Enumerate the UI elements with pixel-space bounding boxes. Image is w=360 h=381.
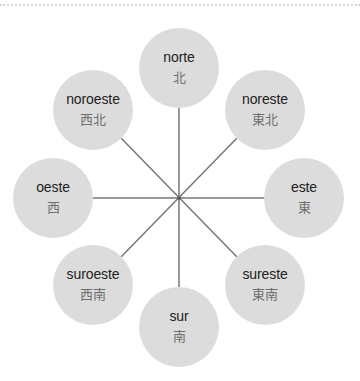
label-chinese: 東 xyxy=(298,199,311,217)
label-spanish: suroeste xyxy=(67,266,120,283)
label-chinese: 西北 xyxy=(80,111,106,129)
label-spanish: oeste xyxy=(36,179,70,196)
node-northwest: noroeste 西北 xyxy=(53,70,133,150)
label-chinese: 北 xyxy=(173,69,186,87)
label-chinese: 東南 xyxy=(252,286,278,304)
label-spanish: noroeste xyxy=(66,91,120,108)
node-north: norte 北 xyxy=(139,28,219,108)
node-south: sur 南 xyxy=(139,287,219,367)
label-chinese: 西 xyxy=(47,199,60,217)
node-west: oeste 西 xyxy=(13,158,93,238)
label-spanish: sur xyxy=(169,308,188,325)
label-spanish: sureste xyxy=(242,266,287,283)
label-spanish: este xyxy=(291,179,317,196)
label-spanish: norte xyxy=(163,49,194,66)
node-northeast: noreste 東北 xyxy=(225,70,305,150)
node-east: este 東 xyxy=(264,158,344,238)
node-southwest: suroeste 西南 xyxy=(53,245,133,325)
label-chinese: 西南 xyxy=(80,286,106,304)
hub-point xyxy=(177,196,181,200)
node-southeast: sureste 東南 xyxy=(225,245,305,325)
label-spanish: noreste xyxy=(242,91,288,108)
label-chinese: 南 xyxy=(173,328,186,346)
label-chinese: 東北 xyxy=(252,111,278,129)
